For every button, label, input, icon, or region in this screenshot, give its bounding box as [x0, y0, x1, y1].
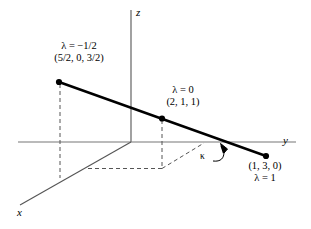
point-middle-coords: (2, 1, 1) [146, 96, 220, 108]
point-left-coords: (5/2, 0, 3/2) [36, 52, 122, 64]
point-middle-param: λ = 0 [146, 84, 220, 96]
figure-graphics [0, 0, 311, 229]
axis-label-y: y [283, 134, 288, 146]
axis-label-z: z [136, 6, 140, 18]
point-label-right: (1, 3, 0) λ = 1 [228, 160, 302, 184]
x-axis [20, 142, 131, 205]
point-label-left: λ = −1/2 (5/2, 0, 3/2) [36, 40, 122, 64]
point-marker-right [263, 153, 269, 159]
axis-label-x: x [17, 206, 22, 218]
point-marker-left [56, 79, 62, 85]
dashed-plane-diagonal [162, 143, 204, 169]
point-right-coords: (1, 3, 0) [228, 160, 302, 172]
point-label-middle: λ = 0 (2, 1, 1) [146, 84, 220, 108]
angle-label-kappa: κ [200, 151, 205, 162]
figure-canvas: z y x λ = −1/2 (5/2, 0, 3/2) λ = 0 (2, 1… [0, 0, 311, 229]
angle-leader-curve [213, 152, 224, 161]
point-left-param: λ = −1/2 [36, 40, 122, 52]
point-marker-middle [159, 115, 165, 121]
point-right-param: λ = 1 [228, 172, 302, 184]
